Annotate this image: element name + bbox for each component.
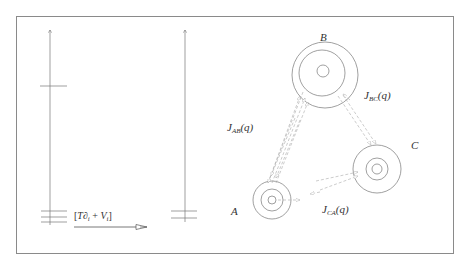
coupling-subscript: CA bbox=[327, 209, 336, 217]
coupling-label-bc: JBC(q) bbox=[364, 90, 391, 103]
node-label-b: B bbox=[320, 32, 327, 43]
node-c bbox=[353, 145, 401, 193]
node-label-c: C bbox=[411, 140, 418, 151]
coupling-arrows-ab bbox=[268, 92, 308, 183]
operator-plus: + bbox=[90, 210, 101, 221]
coupling-arg: (q) bbox=[336, 203, 349, 215]
transition-arrow bbox=[74, 225, 147, 230]
bracket-close: ] bbox=[109, 210, 112, 221]
coupling-subscript: BC bbox=[369, 95, 378, 103]
node-label-a: A bbox=[231, 206, 238, 217]
coupling-arrows-ca bbox=[278, 172, 358, 200]
coupling-arg: (q) bbox=[378, 89, 391, 101]
operator-label: [T∂i + Vi] bbox=[74, 211, 112, 223]
left-energy-axis bbox=[40, 30, 67, 225]
diagram: [T∂i + Vi] B A C JAB(q) JBC(q) JCA(q) bbox=[0, 0, 468, 265]
coupling-label-ca: JCA(q) bbox=[322, 204, 349, 217]
coupling-arg: (q) bbox=[240, 121, 253, 133]
right-energy-axis bbox=[171, 30, 197, 222]
coupling-label-ab: JAB(q) bbox=[227, 122, 253, 135]
